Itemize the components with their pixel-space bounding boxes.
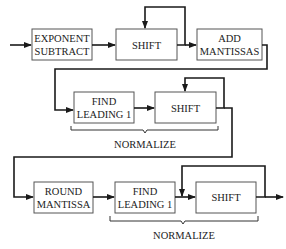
block-label: MANTISSA (37, 199, 91, 210)
normalize-brace-1 (71, 126, 218, 133)
block-find-leading-1-a: FIND LEADING 1 (74, 92, 134, 123)
block-label: ROUND (45, 186, 83, 197)
block-exponent-subtract: EXPONENT SUBTRACT (32, 29, 92, 60)
block-find-leading-1-b: FIND LEADING 1 (115, 182, 175, 213)
block-shift-1: SHIFT (116, 29, 177, 60)
block-label: LEADING 1 (77, 109, 132, 120)
block-label: ADD (218, 33, 241, 44)
normalize-label-1: NORMALIZE (114, 139, 176, 150)
normalize-brace-2 (110, 216, 258, 224)
block-shift-2: SHIFT (155, 92, 216, 123)
block-label: SHIFT (171, 103, 201, 114)
block-shift-3: SHIFT (196, 182, 256, 213)
block-add-mantissas: ADD MANTISSAS (197, 29, 262, 60)
block-label: FIND (92, 96, 117, 107)
block-label: SHIFT (132, 40, 162, 51)
block-round-mantissa: ROUND MANTISSA (34, 182, 93, 213)
fp-adder-diagram: EXPONENT SUBTRACT SHIFT ADD MANTISSAS FI… (0, 0, 286, 249)
block-label: EXPONENT (34, 33, 90, 44)
block-label: LEADING 1 (118, 199, 173, 210)
block-label: FIND (133, 186, 158, 197)
block-label: MANTISSAS (200, 46, 260, 57)
block-label: SUBTRACT (35, 46, 90, 57)
normalize-label-2: NORMALIZE (153, 230, 215, 241)
block-label: SHIFT (211, 192, 241, 203)
